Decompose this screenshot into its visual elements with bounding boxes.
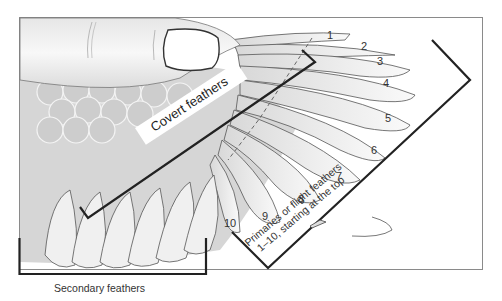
primary-number-10: 10 [224, 217, 236, 229]
wing-illustration [0, 0, 502, 301]
primary-number-5: 5 [385, 112, 391, 124]
primary-number-4: 4 [383, 77, 389, 89]
primary-number-3: 3 [377, 55, 383, 67]
secondary-feathers-label: Secondary feathers [54, 282, 145, 294]
primary-number-6: 6 [371, 144, 377, 156]
thumbnail [163, 29, 219, 71]
primary-number-1: 1 [327, 29, 333, 41]
wing-diagram: 1 2 3 4 5 6 7 8 9 10 Covert feathers Pri… [0, 0, 502, 301]
primary-number-2: 2 [361, 40, 367, 52]
